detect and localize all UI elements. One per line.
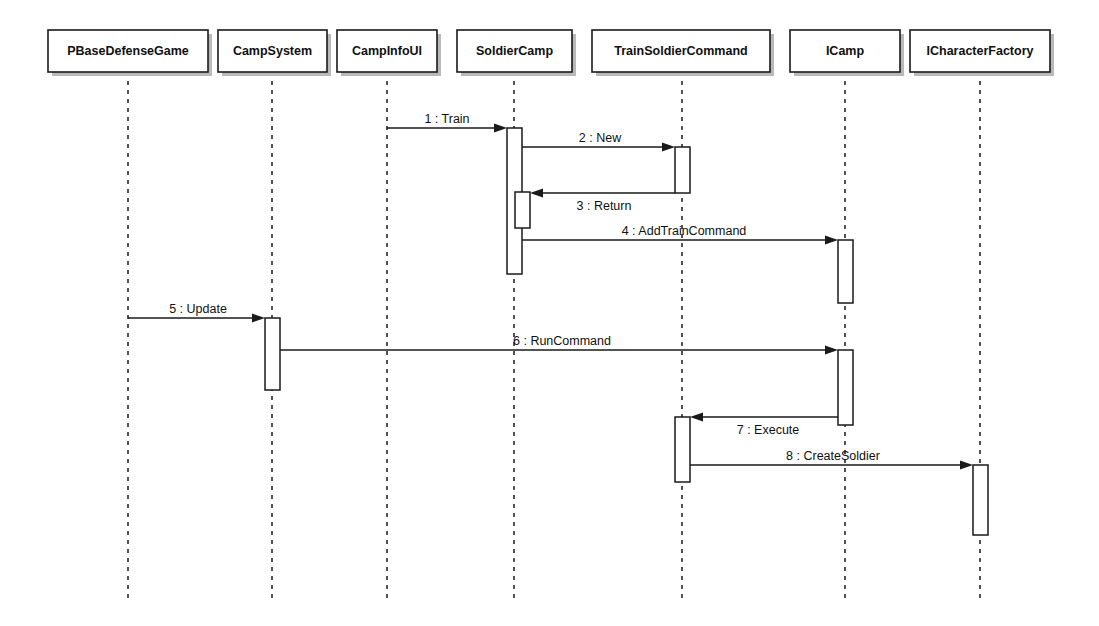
activation-bar-act-trainsoldier-1: [675, 147, 690, 193]
activation-bar-act-soldiercamp-nested: [515, 192, 530, 228]
activation-bar-act-icamp-2: [838, 350, 853, 425]
message-arrowhead-2: [662, 143, 675, 152]
message-arrowhead-8: [960, 461, 973, 470]
participant-icamp[interactable]: ICamp: [790, 30, 904, 76]
message-label-1: 1 : Train: [424, 112, 469, 126]
participant-label-icharacterfactory: ICharacterFactory: [927, 44, 1034, 58]
message-label-4: 4 : AddTrainCommand: [622, 224, 747, 238]
message-label-6: 6 : RunCommand: [513, 334, 611, 348]
participant-label-pbasedefensegame: PBaseDefenseGame: [67, 44, 189, 58]
activation-bar-act-icharacterfactory-1: [973, 465, 988, 535]
participant-label-campinfoui: CampInfoUI: [352, 44, 422, 58]
message-label-3: 3 : Return: [577, 199, 632, 213]
participant-trainsoldiercommand[interactable]: TrainSoldierCommand: [592, 30, 774, 76]
activation-bar-act-icamp-1: [838, 240, 853, 303]
participant-label-trainsoldiercommand: TrainSoldierCommand: [614, 44, 747, 58]
participant-campsystem[interactable]: CampSystem: [218, 30, 331, 76]
participant-label-campsystem: CampSystem: [233, 44, 312, 58]
sequence-diagram-canvas: PBaseDefenseGameCampSystemCampInfoUISold…: [0, 0, 1099, 626]
message-arrowhead-5: [252, 314, 265, 323]
message-3-return[interactable]: [530, 189, 675, 198]
participant-campinfoui[interactable]: CampInfoUI: [337, 30, 441, 76]
activations-layer: [265, 128, 988, 535]
message-arrowhead-1: [494, 124, 507, 133]
message-label-5: 5 : Update: [169, 302, 227, 316]
message-labels-layer: 1 : Train2 : New3 : Return4 : AddTrainCo…: [169, 112, 880, 463]
participant-label-icamp: ICamp: [826, 44, 865, 58]
sequence-diagram-svg: PBaseDefenseGameCampSystemCampInfoUISold…: [0, 0, 1099, 626]
activation-bar-act-campsystem-1: [265, 318, 280, 390]
participant-pbasedefensegame[interactable]: PBaseDefenseGame: [48, 30, 212, 76]
message-label-2: 2 : New: [579, 131, 622, 145]
message-arrowhead-7: [690, 413, 703, 422]
message-arrowhead-4: [825, 236, 838, 245]
participant-soldiercamp[interactable]: SoldierCamp: [457, 30, 576, 76]
participants-layer: PBaseDefenseGameCampSystemCampInfoUISold…: [48, 30, 1054, 76]
message-7-execute[interactable]: [690, 413, 838, 422]
participant-icharacterfactory[interactable]: ICharacterFactory: [910, 30, 1054, 76]
message-arrowhead-6: [825, 346, 838, 355]
message-label-7: 7 : Execute: [737, 423, 800, 437]
message-label-8: 8 : CreateSoldier: [786, 449, 880, 463]
message-arrowhead-3: [530, 189, 543, 198]
participant-label-soldiercamp: SoldierCamp: [476, 44, 553, 58]
activation-bar-act-trainsoldier-2: [675, 417, 690, 482]
